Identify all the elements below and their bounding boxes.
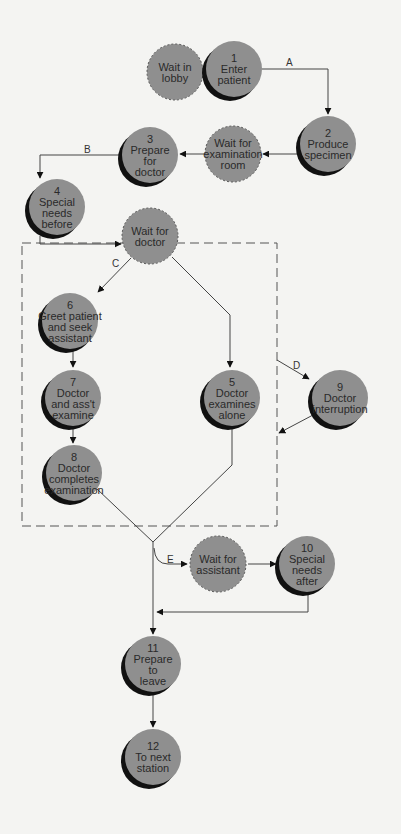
node-label: assistant bbox=[196, 564, 239, 576]
node-label: room bbox=[220, 159, 245, 171]
edge-A-1-to-2 bbox=[262, 69, 328, 114]
node-label: interruption bbox=[312, 403, 367, 415]
node-label: alone bbox=[219, 409, 246, 421]
node-label: patient bbox=[217, 74, 250, 86]
node-label: after bbox=[296, 575, 318, 587]
node-n8: 8Doctorcompletesexamination bbox=[42, 445, 104, 505]
edge-label-C: C bbox=[112, 258, 119, 269]
patient-flow-diagram: Wait inlobby1Enterpatient2Producespecime… bbox=[0, 0, 401, 834]
edge-10-to-main bbox=[157, 593, 308, 612]
node-label: examination bbox=[44, 484, 103, 496]
node-n10: 10Specialneedsafter bbox=[275, 536, 335, 596]
node-label: station bbox=[137, 762, 169, 774]
flow-nodes: Wait inlobby1Enterpatient2Producespecime… bbox=[25, 41, 368, 789]
edge-wait-doctor-to-5 bbox=[172, 257, 230, 367]
node-n12: 12To nextstation bbox=[121, 729, 181, 789]
diagram-canvas: Wait inlobby1Enterpatient2Producespecime… bbox=[0, 0, 401, 834]
node-n3: 3Preparefordoctor bbox=[118, 127, 178, 187]
node-n11: 11Preparetoleave bbox=[121, 636, 181, 696]
edge-9-to-box bbox=[279, 415, 313, 433]
node-label: specimen bbox=[304, 149, 351, 161]
edge-8-to-merge bbox=[97, 489, 153, 542]
node-wait-exam: Wait forexaminationroom bbox=[203, 126, 262, 182]
node-wait-lobby: Wait inlobby bbox=[147, 44, 203, 100]
node-label: before bbox=[41, 218, 72, 230]
edge-labels: ABCDE bbox=[84, 57, 300, 565]
node-n1: 1Enterpatient bbox=[202, 41, 262, 101]
edge-5-to-merge bbox=[153, 426, 232, 542]
node-label: lobby bbox=[162, 72, 189, 84]
edge-label-A: A bbox=[286, 57, 293, 68]
node-label: doctor bbox=[135, 166, 166, 178]
node-n6: 6Greet patientand seekassistant bbox=[38, 293, 102, 353]
node-wait-assistant: Wait forassistant bbox=[190, 536, 246, 592]
node-label: examine bbox=[52, 409, 94, 421]
node-label: leave bbox=[140, 675, 166, 687]
node-n5: 5Doctorexaminesalone bbox=[200, 370, 260, 430]
edge-B-3-to-4 bbox=[40, 155, 122, 178]
edge-label-E: E bbox=[167, 554, 174, 565]
edge-label-B: B bbox=[84, 144, 91, 155]
node-label: assistant bbox=[48, 332, 91, 344]
node-wait-doctor: Wait fordoctor bbox=[122, 208, 178, 264]
node-n7: 7Doctorand ass'texamine bbox=[41, 370, 101, 430]
node-label: doctor bbox=[135, 236, 166, 248]
node-n4: 4Specialneedsbefore bbox=[25, 179, 85, 239]
node-n9: 9Doctorinterruption bbox=[308, 370, 368, 430]
edge-label-D: D bbox=[293, 360, 300, 371]
node-n2: 2Producespecimen bbox=[296, 116, 356, 176]
